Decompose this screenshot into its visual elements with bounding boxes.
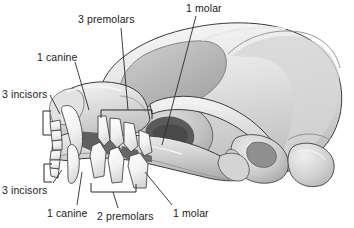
upper-incisor-3 bbox=[52, 140, 62, 150]
label-premolars-upper: 3 premolars bbox=[78, 13, 135, 25]
occipital-condyle bbox=[288, 143, 334, 186]
label-premolars-lower: 2 premolars bbox=[97, 210, 154, 222]
label-molar-upper: 1 molar bbox=[186, 2, 222, 14]
leader-molar-lower bbox=[145, 172, 172, 205]
label-canine-lower: 1 canine bbox=[47, 207, 88, 219]
label-canine-upper: 1 canine bbox=[37, 51, 78, 63]
upper-incisor-2 bbox=[51, 130, 62, 141]
lower-incisor-1 bbox=[50, 150, 61, 160]
label-incisors-lower: 3 incisors bbox=[2, 184, 47, 196]
skull-diagram-figure: 3 premolars 1 molar 1 canine 3 incisors … bbox=[0, 0, 354, 228]
lower-canine bbox=[68, 145, 80, 184]
lower-premolar-1 bbox=[90, 142, 106, 178]
label-incisors-upper: 3 incisors bbox=[2, 88, 47, 100]
leader-premolars-lower bbox=[113, 192, 118, 208]
label-molar-lower: 1 molar bbox=[173, 207, 209, 219]
leader-canine-lower bbox=[77, 172, 82, 205]
upper-incisor-1 bbox=[50, 120, 61, 131]
lower-premolars-bracket bbox=[91, 183, 136, 192]
skull-illustration bbox=[0, 0, 354, 228]
